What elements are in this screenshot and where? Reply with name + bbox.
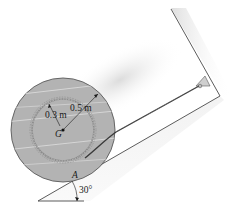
inner-radius-label: 0.3 m (45, 110, 67, 120)
spool-on-incline-diagram: 0.5 m 0.3 m G A 30° (0, 0, 235, 211)
outer-radius-label: 0.5 m (70, 103, 92, 113)
incline-angle-label: 30° (79, 185, 93, 195)
contact-point-label: A (71, 170, 78, 180)
center-label: G (55, 129, 62, 139)
